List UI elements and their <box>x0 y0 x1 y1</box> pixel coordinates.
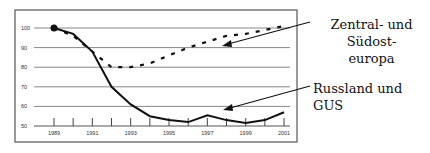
x-tick-label: 1989 <box>48 130 60 136</box>
annotation-russland-gus: Russland und GUS <box>313 80 430 114</box>
series-russland-gus <box>54 28 284 123</box>
y-tick-label: 100 <box>21 25 30 31</box>
gridlines <box>34 28 290 126</box>
annotation-zentral-line1: Zentral- und Südost- <box>313 16 430 50</box>
annotation-zentral-suedosteuropa: Zentral- und Südost- europa <box>313 16 430 67</box>
y-tick-label: 50 <box>21 123 27 129</box>
y-tick-label: 90 <box>21 45 27 51</box>
x-tick-label: 1995 <box>163 130 175 136</box>
y-axis-labels: 1009080706050 <box>21 25 30 129</box>
x-tick-label: 1993 <box>125 130 137 136</box>
y-tick-label: 70 <box>21 84 27 90</box>
x-tick-label: 1991 <box>86 130 98 136</box>
y-tick-label: 80 <box>21 64 27 70</box>
y-tick-label: 60 <box>21 103 27 109</box>
x-tick-label: 2001 <box>278 130 290 136</box>
start-point-marker <box>51 25 58 32</box>
series-zentral-suedosteuropa <box>54 26 284 67</box>
x-tick-label: 1997 <box>201 130 213 136</box>
annotation-zentral-line2: europa <box>313 50 430 67</box>
x-tick-label: 1999 <box>240 130 252 136</box>
